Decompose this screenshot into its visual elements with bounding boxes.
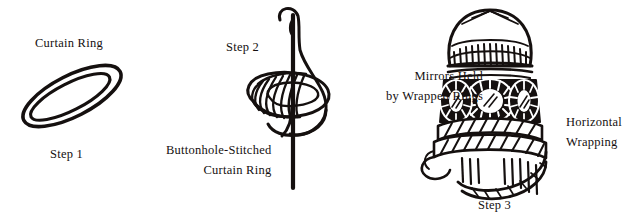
buttonhole-stitched-ring-label: Buttonhole-Stitched Curtain Ring [166,140,271,180]
buttonhole-label-line-1: Buttonhole-Stitched [166,143,271,157]
step-1-caption: Step 1 [50,145,83,164]
mirrors-label-line-2: by Wrapped Rings [386,86,483,106]
diagram-canvas: Curtain Ring Step 1 [0,0,639,220]
step-2-caption: Step 2 [226,38,259,57]
mirrors-label-line-1: Mirrors Held [414,69,483,83]
horizontal-label-line-2: Wrapping [566,132,622,152]
mirrors-held-label: Mirrors Held by Wrapped Rings [386,66,483,106]
step-3-caption: Step 3 [478,196,511,215]
horizontal-label-line-1: Horizontal [566,115,622,129]
curtain-ring-label: Curtain Ring [35,34,103,53]
horizontal-wrapping-label: Horizontal Wrapping [566,112,622,152]
curtain-ring-illustration [12,56,132,136]
buttonhole-label-line-2: Curtain Ring [166,160,271,180]
